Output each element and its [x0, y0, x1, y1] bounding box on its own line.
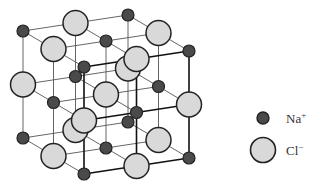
chloride-ion-atom	[41, 37, 66, 62]
sodium-ion-atom	[100, 35, 112, 47]
sodium-ion-atom	[17, 25, 29, 37]
sodium-ion-atom	[183, 45, 195, 57]
chloride-ion-atom	[124, 154, 149, 179]
chloride-ion-atom	[177, 92, 202, 117]
chloride-ion-atom	[94, 82, 119, 107]
sodium-ion-atom	[100, 142, 112, 154]
sodium-ion-atom	[78, 61, 90, 73]
sodium-ion-atom	[122, 116, 134, 128]
chloride-ion-atom	[72, 108, 97, 133]
sodium-ion-atom	[78, 168, 90, 180]
chloride-ion-atom	[146, 21, 171, 46]
legend-cl-swatch-icon	[251, 138, 276, 163]
legend-na-swatch-icon	[257, 112, 269, 124]
chloride-ion-atom	[63, 11, 88, 36]
sodium-ion-atom	[70, 71, 82, 83]
chloride-ion-atom	[146, 128, 171, 153]
sodium-ion-atom	[183, 152, 195, 164]
chloride-ion-atom	[41, 144, 66, 169]
sodium-ion-atom	[48, 97, 60, 109]
legend	[251, 112, 276, 163]
sodium-ion-atom	[131, 107, 143, 119]
chloride-ion-atom	[11, 72, 36, 97]
nacl-lattice-diagram	[0, 0, 328, 188]
sodium-ion-atom	[122, 9, 134, 21]
sodium-ion-atom	[17, 132, 29, 144]
chloride-ion-atom	[124, 47, 149, 72]
sodium-ion-atom	[153, 81, 165, 93]
